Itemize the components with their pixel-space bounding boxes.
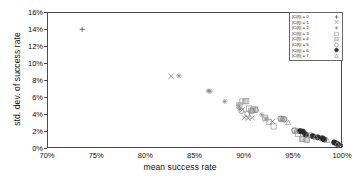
data-point [303,137,308,142]
data-series [168,74,275,124]
y-tick-mark [44,148,47,149]
data-point [245,111,250,116]
x-tick-label: 100% [332,151,351,160]
legend-item[interactable]: |C(f)| = 7 [292,53,341,59]
data-point [168,74,173,79]
data-point [271,124,276,129]
data-series [176,73,269,121]
y-tick-label: 16% [17,8,43,17]
x-tick-label: 90% [236,151,251,160]
data-series [80,27,85,32]
data-point [208,89,213,94]
x-tick-label: 80% [138,151,153,160]
legend-item-label: |C(f)| = 7 [292,53,332,59]
y-tick-label: 10% [17,59,43,68]
y-tick-label: 6% [17,93,43,102]
y-tick-label: 8% [17,76,43,85]
y-tick-label: 0% [17,144,43,153]
x-tick-mark [342,144,343,147]
data-point [176,73,181,78]
data-point [262,115,267,120]
data-point [222,99,227,104]
x-tick-label: 85% [187,151,202,160]
legend-marker-open-triangle-icon [332,53,341,59]
y-tick-label: 4% [17,110,43,119]
x-axis-title: mean success rate [0,162,360,172]
data-series [237,99,309,142]
data-point [80,27,85,32]
y-tick-label: 12% [17,42,43,51]
data-point [243,99,248,104]
x-tick-label: 95% [285,151,300,160]
x-tick-label: 75% [89,151,104,160]
legend-box: |C(f)| = 0|C(f)| = 1|C(f)| = 2|C(f)| = 3… [289,12,343,61]
y-tick-label: 2% [17,127,43,136]
data-point [250,115,255,120]
data-point [237,103,242,108]
y-tick-label: 14% [17,25,43,34]
scatter-plot-figure: std. dev. of success rate mean success r… [0,0,360,179]
